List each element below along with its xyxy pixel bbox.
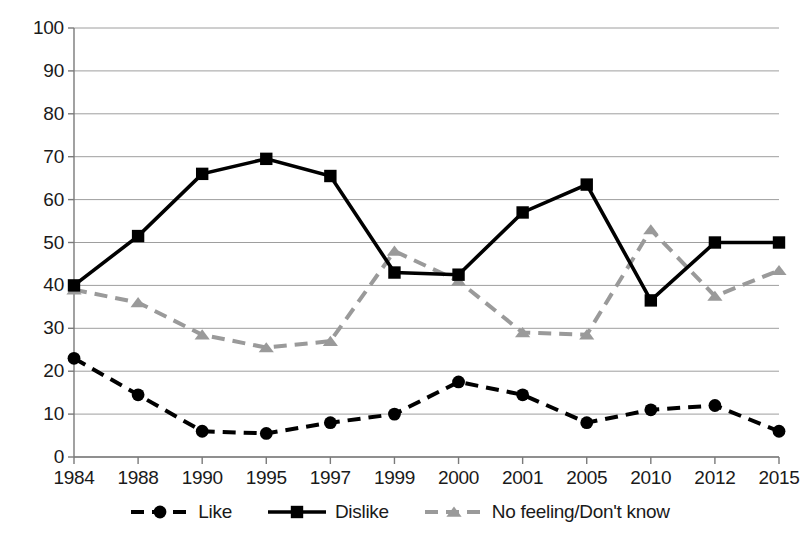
square-marker [291, 506, 303, 518]
y-tick-label: 20 [20, 361, 64, 380]
y-tick-label: 40 [20, 275, 64, 294]
circle-marker [580, 416, 593, 429]
y-tick-label: 60 [20, 190, 64, 209]
legend-swatch [129, 502, 191, 522]
legend-label: No feeling/Don't know [492, 501, 670, 523]
square-marker [388, 266, 400, 278]
square-marker [68, 279, 80, 291]
axes-group [68, 28, 779, 464]
square-marker [324, 170, 336, 182]
series-no-feeling-don-t-know [66, 224, 786, 352]
chart-legend: LikeDislikeNo feeling/Don't know [0, 495, 799, 529]
circle-marker [709, 399, 722, 412]
x-tick-label: 2012 [681, 468, 749, 487]
triangle-marker [130, 297, 145, 307]
circle-marker [452, 376, 465, 389]
triangle-marker [771, 265, 786, 275]
square-marker [132, 230, 144, 242]
y-tick-label: 90 [20, 61, 64, 80]
y-tick-label: 70 [20, 147, 64, 166]
square-marker [709, 236, 721, 248]
square-marker [581, 178, 593, 190]
y-tick-label: 0 [20, 447, 64, 466]
y-tick-label: 10 [20, 404, 64, 423]
circle-marker [644, 403, 657, 416]
y-tick-label: 100 [20, 18, 64, 37]
x-tick-label: 1995 [232, 468, 300, 487]
gridlines-group [74, 28, 779, 457]
circle-marker [132, 388, 145, 401]
circle-marker [324, 416, 337, 429]
circle-marker [773, 425, 786, 438]
x-tick-label: 2000 [425, 468, 493, 487]
circle-marker [68, 352, 81, 365]
square-marker [773, 236, 785, 248]
circle-marker [516, 388, 529, 401]
x-tick-label: 1990 [168, 468, 236, 487]
x-tick-label: 1997 [296, 468, 364, 487]
x-tick-label: 2010 [617, 468, 685, 487]
circle-marker [260, 427, 273, 440]
legend-item[interactable]: Like [129, 501, 232, 523]
legend-swatch [266, 502, 328, 522]
legend-item[interactable]: Dislike [266, 501, 389, 523]
x-tick-label: 1988 [104, 468, 172, 487]
square-marker [196, 168, 208, 180]
legend-swatch [423, 502, 485, 522]
circle-marker [196, 425, 209, 438]
series-like [68, 352, 786, 440]
y-tick-label: 80 [20, 104, 64, 123]
triangle-marker [387, 246, 402, 256]
series-line [74, 230, 779, 348]
series-dislike [68, 153, 785, 307]
series-group [66, 153, 786, 440]
triangle-marker [643, 224, 658, 234]
x-tick-label: 2005 [553, 468, 621, 487]
circle-marker [154, 506, 167, 519]
circle-marker [388, 408, 401, 421]
legend-label: Dislike [335, 501, 389, 523]
square-marker [645, 294, 657, 306]
series-line [74, 358, 779, 433]
legend-item[interactable]: No feeling/Don't know [423, 501, 670, 523]
legend-label: Like [198, 501, 232, 523]
x-tick-label: 2001 [489, 468, 557, 487]
square-marker [260, 153, 272, 165]
square-marker [452, 268, 464, 280]
x-tick-label: 1999 [360, 468, 428, 487]
y-tick-label: 30 [20, 318, 64, 337]
series-line [74, 159, 779, 301]
x-tick-label: 2015 [745, 468, 804, 487]
x-tick-label: 1984 [40, 468, 108, 487]
y-tick-label: 50 [20, 233, 64, 252]
square-marker [516, 206, 528, 218]
